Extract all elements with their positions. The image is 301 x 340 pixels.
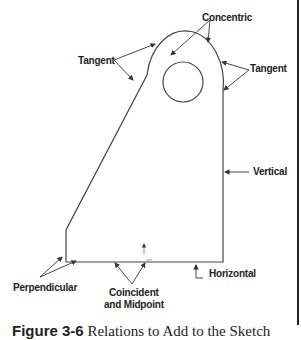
label-tangent-right: Tangent (250, 63, 287, 74)
hole-circle (163, 62, 203, 102)
figure-frame: Concentric Tangent Tangent Vertical Hori… (0, 0, 301, 340)
label-vertical: Vertical (253, 166, 287, 177)
label-coincident: Coincident (109, 287, 159, 298)
figure-caption: Figure 3-6 Relations to Add to the Sketc… (12, 322, 270, 340)
label-concentric: Concentric (202, 12, 252, 23)
label-tangent-left: Tangent (78, 55, 115, 66)
caption-text: Relations to Add to the Sketch (84, 323, 271, 339)
label-perpendicular: Perpendicular (13, 282, 77, 293)
caption-number: Figure 3-6 (12, 322, 84, 339)
label-horizontal: Horizontal (209, 268, 256, 279)
label-midpoint: and Midpoint (104, 299, 164, 310)
